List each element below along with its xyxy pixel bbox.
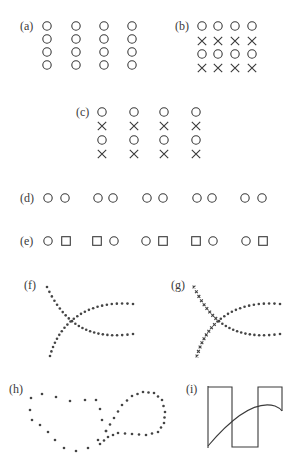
dot (153, 392, 156, 395)
circle-mark (100, 61, 108, 69)
dot (236, 330, 239, 333)
dot (145, 434, 148, 437)
dot (163, 422, 166, 425)
circle-mark (214, 50, 222, 58)
x-dot (207, 330, 210, 333)
dot (131, 433, 134, 436)
dot (112, 434, 115, 437)
dot (69, 400, 72, 403)
dot (30, 397, 33, 400)
square-mark (62, 237, 71, 246)
dot (263, 334, 266, 337)
dot (162, 405, 165, 408)
dot (47, 431, 50, 434)
dot (101, 419, 104, 422)
dot (107, 436, 110, 439)
dot (216, 320, 219, 323)
dot (89, 330, 92, 333)
dot (138, 433, 141, 436)
gestalt-figure (0, 0, 300, 467)
label-g: (g) (171, 279, 185, 291)
dot (97, 439, 100, 442)
x-dot (195, 290, 198, 293)
circle-mark (72, 61, 80, 69)
dot (93, 331, 96, 334)
circle-mark (160, 108, 168, 116)
circle-mark (160, 136, 168, 144)
dot (92, 307, 95, 310)
dot (263, 302, 266, 305)
circle-mark (208, 194, 216, 202)
circle-mark (110, 237, 118, 245)
dot (126, 399, 129, 402)
circle-mark (258, 194, 266, 202)
circle-mark (248, 22, 256, 30)
x-dot (205, 307, 208, 310)
x-dot (214, 317, 217, 320)
dot (78, 325, 81, 328)
circle-mark (142, 237, 150, 245)
dot (160, 426, 163, 429)
dot (131, 395, 134, 398)
dot (64, 314, 67, 317)
label-i: (i) (186, 383, 197, 395)
x-dot (201, 341, 204, 344)
dot (60, 330, 63, 333)
dot (51, 295, 54, 298)
circle-mark (128, 35, 136, 43)
dot (75, 450, 78, 453)
circle-mark (43, 22, 51, 30)
dot (248, 304, 251, 307)
label-d: (d) (20, 192, 34, 204)
circle-mark (209, 237, 217, 245)
dot (235, 309, 238, 312)
dot (225, 325, 228, 328)
panel-f-crossing-dotted-curves (46, 286, 135, 358)
x-mark (160, 122, 168, 130)
dot (279, 303, 282, 306)
dot (116, 302, 119, 305)
square-wave (208, 386, 282, 448)
x-mark (248, 37, 256, 45)
dot (117, 432, 120, 435)
x-mark (192, 150, 200, 158)
dot (151, 432, 154, 435)
circle-mark (248, 50, 256, 58)
dot (46, 286, 49, 289)
dot (268, 302, 271, 305)
dot (58, 334, 61, 337)
dot (49, 355, 52, 358)
x-dot (196, 355, 199, 358)
dot (132, 333, 135, 336)
dot (52, 346, 55, 349)
label-c: (c) (76, 106, 89, 118)
x-mark (192, 122, 200, 130)
dot (227, 313, 230, 316)
circle-mark (98, 108, 106, 116)
dot (258, 334, 261, 337)
x-dot (199, 346, 202, 349)
x-dot (210, 326, 213, 329)
dot (59, 307, 62, 310)
dot (95, 399, 98, 402)
label-e: (e) (20, 235, 33, 247)
dot (85, 328, 88, 331)
dot (132, 303, 135, 306)
x-dot (213, 323, 216, 326)
circle-mark (159, 194, 167, 202)
dot (41, 393, 44, 396)
dot (253, 334, 256, 337)
dot (157, 431, 160, 434)
dot (126, 302, 129, 305)
square-mark (259, 237, 268, 246)
dot (80, 313, 83, 316)
dot (116, 334, 119, 337)
dot (56, 337, 59, 340)
dot (253, 303, 256, 306)
label-a: (a) (20, 20, 33, 32)
x-dot (203, 337, 206, 340)
dot (121, 302, 124, 305)
dot (87, 447, 90, 450)
circle-mark (198, 50, 206, 58)
x-dot (211, 314, 214, 317)
